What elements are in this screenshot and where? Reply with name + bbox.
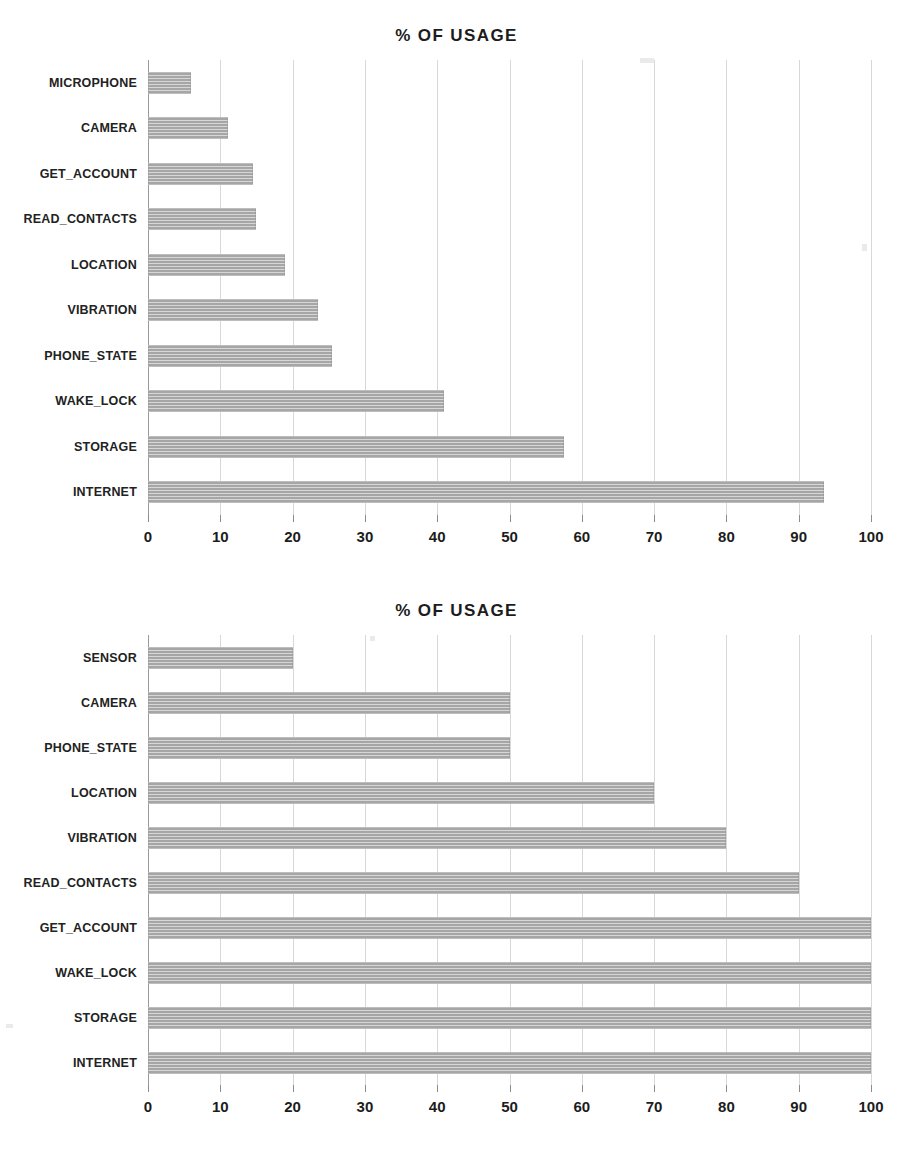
category-label-gutter: MICROPHONECAMERAGET_ACCOUNTREAD_CONTACTS…	[0, 60, 148, 515]
bar	[148, 208, 256, 230]
x-axis-tick	[726, 515, 727, 522]
x-axis-tick	[726, 1085, 727, 1092]
bar	[148, 299, 318, 321]
category-label: STORAGE	[74, 440, 137, 454]
bar	[148, 390, 444, 412]
x-axis-tick	[365, 1085, 366, 1092]
bar-row	[148, 379, 871, 425]
bar	[148, 782, 654, 804]
x-axis-tick-label: 80	[718, 1098, 735, 1115]
bars-area	[148, 635, 871, 1085]
x-axis-tick	[437, 1085, 438, 1092]
bar-row	[148, 680, 871, 725]
category-label: VIBRATION	[67, 831, 137, 845]
bar	[148, 1007, 871, 1029]
x-axis-tick-label: 100	[858, 1098, 883, 1115]
category-label: LOCATION	[71, 258, 137, 272]
x-axis-tick-label: 70	[646, 1098, 663, 1115]
category-label-row: GET_ACCOUNT	[0, 151, 148, 197]
bar	[148, 737, 510, 759]
x-axis-tick-label: 0	[144, 528, 152, 545]
category-label: SENSOR	[83, 651, 137, 665]
category-label: LOCATION	[71, 786, 137, 800]
category-label-row: VIBRATION	[0, 815, 148, 860]
gridline	[871, 635, 872, 1085]
bar	[148, 117, 228, 139]
bar-row	[148, 151, 871, 197]
x-axis-tick-label: 30	[357, 1098, 374, 1115]
category-label-gutter: SENSORCAMERAPHONE_STATELOCATIONVIBRATION…	[0, 635, 148, 1085]
x-axis-tick-label: 80	[718, 528, 735, 545]
x-axis-tick	[799, 1085, 800, 1092]
category-label: INTERNET	[73, 485, 137, 499]
bar-row	[148, 995, 871, 1040]
x-axis-tick-label: 60	[573, 1098, 590, 1115]
category-label-row: CAMERA	[0, 680, 148, 725]
category-label: READ_CONTACTS	[24, 876, 137, 890]
category-label: VIBRATION	[67, 303, 137, 317]
category-label-row: VIBRATION	[0, 288, 148, 334]
bar-row	[148, 635, 871, 680]
bar-row	[148, 470, 871, 516]
bar-row	[148, 905, 871, 950]
x-axis-tick	[582, 1085, 583, 1092]
x-axis: 0102030405060708090100	[148, 515, 871, 555]
category-label-row: WAKE_LOCK	[0, 379, 148, 425]
category-label-row: SENSOR	[0, 635, 148, 680]
category-label: GET_ACCOUNT	[40, 167, 137, 181]
x-axis-tick-label: 30	[357, 528, 374, 545]
bar	[148, 917, 871, 939]
x-axis-tick-label: 90	[790, 1098, 807, 1115]
x-axis-tick-label: 70	[646, 528, 663, 545]
bar-row-list	[148, 635, 871, 1085]
bar-row	[148, 860, 871, 905]
x-axis-tick-label: 20	[284, 528, 301, 545]
category-label-row: READ_CONTACTS	[0, 197, 148, 243]
x-axis-tick	[654, 1085, 655, 1092]
chart-title: % OF USAGE	[0, 0, 913, 46]
x-axis-tick	[437, 515, 438, 522]
plot-area-bottom: SENSORCAMERAPHONE_STATELOCATIONVIBRATION…	[0, 635, 913, 1085]
bar-row	[148, 333, 871, 379]
bar	[148, 647, 293, 669]
x-axis: 0102030405060708090100	[148, 1085, 871, 1125]
category-label-row: PHONE_STATE	[0, 333, 148, 379]
x-axis-tick-label: 10	[212, 1098, 229, 1115]
x-axis-tick-label: 50	[501, 528, 518, 545]
bar-row	[148, 60, 871, 106]
category-label-row: READ_CONTACTS	[0, 860, 148, 905]
x-axis-tick	[148, 1085, 149, 1092]
category-label-row: STORAGE	[0, 995, 148, 1040]
bar	[148, 962, 871, 984]
category-label: CAMERA	[81, 121, 137, 135]
x-axis-tick	[871, 515, 872, 522]
category-label: PHONE_STATE	[44, 349, 137, 363]
x-axis-tick	[871, 1085, 872, 1092]
bar	[148, 872, 799, 894]
bar	[148, 345, 332, 367]
category-label-row: LOCATION	[0, 770, 148, 815]
category-label: INTERNET	[73, 1056, 137, 1070]
category-label-row: STORAGE	[0, 424, 148, 470]
category-label: WAKE_LOCK	[55, 394, 137, 408]
bar-row	[148, 770, 871, 815]
x-axis-tick	[148, 515, 149, 522]
bar	[148, 1052, 871, 1074]
category-label: MICROPHONE	[49, 76, 137, 90]
bar	[148, 163, 253, 185]
x-axis-tick	[220, 515, 221, 522]
x-axis-tick	[293, 1085, 294, 1092]
x-axis-tick	[365, 515, 366, 522]
bar-row	[148, 725, 871, 770]
gridline	[871, 60, 872, 515]
x-axis-tick-label: 90	[790, 528, 807, 545]
bar	[148, 254, 285, 276]
x-axis-tick	[510, 1085, 511, 1092]
x-axis-tick-label: 0	[144, 1098, 152, 1115]
category-label: CAMERA	[81, 696, 137, 710]
bar	[148, 72, 191, 94]
bar-row	[148, 106, 871, 152]
category-label: STORAGE	[74, 1011, 137, 1025]
category-label-row: GET_ACCOUNT	[0, 905, 148, 950]
category-label: GET_ACCOUNT	[40, 921, 137, 935]
